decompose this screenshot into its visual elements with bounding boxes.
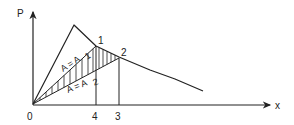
hatch-region-b xyxy=(99,47,115,68)
tick-label-3: 3 xyxy=(115,111,121,122)
origin-label: 0 xyxy=(27,111,33,122)
svg-text:1: 1 xyxy=(83,50,93,61)
y-axis-label: P xyxy=(17,8,24,19)
svg-text:2: 2 xyxy=(91,76,99,87)
point-label-2: 2 xyxy=(121,47,127,58)
load-deformation-diagram: P x 0 4 3 1 2 A = A 1 A = A 2 xyxy=(0,0,294,125)
tick-label-4: 4 xyxy=(92,111,98,122)
point-label-1: 1 xyxy=(98,35,104,46)
svg-text:A = A: A = A xyxy=(65,78,88,95)
x-axis-label: x xyxy=(275,100,280,111)
